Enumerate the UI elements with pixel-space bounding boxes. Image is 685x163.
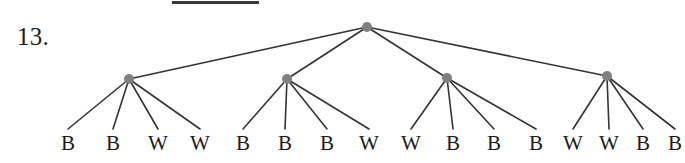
edge-root-to-branch-2 (287, 27, 367, 79)
leaf-label-8: W (359, 133, 379, 154)
leaf-label-5: B (236, 133, 250, 154)
leaf-label-2: B (106, 133, 120, 154)
leaf-label-14: W (599, 133, 619, 154)
leaf-label-4: W (190, 133, 210, 154)
edge-branch-4-to-leaf-2 (607, 76, 609, 129)
edge-branch-3-to-leaf-3 (447, 78, 494, 129)
branch-node-4 (602, 71, 612, 81)
edge-layer (68, 27, 675, 129)
edge-branch-2-to-leaf-1 (243, 79, 287, 129)
leaf-label-7: B (320, 133, 334, 154)
leaf-label-10: B (446, 133, 460, 154)
branch-node-3 (442, 73, 452, 83)
leaf-label-15: B (636, 133, 650, 154)
edge-branch-1-to-leaf-3 (129, 79, 158, 129)
leaf-label-6: B (278, 133, 292, 154)
root-node (362, 22, 372, 32)
edge-branch-4-to-leaf-4 (607, 76, 675, 129)
leaf-label-1: B (61, 133, 75, 154)
leaf-label-13: W (563, 133, 583, 154)
edge-branch-1-to-leaf-4 (129, 79, 200, 129)
edge-branch-3-to-leaf-2 (447, 78, 453, 129)
leaf-label-16: B (668, 133, 682, 154)
leaf-label-3: W (148, 133, 168, 154)
edge-branch-3-to-leaf-1 (411, 78, 447, 129)
leaf-label-9: W (401, 133, 421, 154)
edge-branch-1-to-leaf-1 (68, 79, 129, 129)
leaf-label-11: B (487, 133, 501, 154)
edge-branch-4-to-leaf-1 (573, 76, 607, 129)
edge-branch-2-to-leaf-4 (287, 79, 369, 129)
leaf-label-12: B (529, 133, 543, 154)
edge-root-to-branch-4 (367, 27, 607, 76)
edge-root-to-branch-1 (129, 27, 367, 79)
edge-branch-4-to-leaf-3 (607, 76, 643, 129)
edge-branch-2-to-leaf-2 (285, 79, 287, 129)
branch-node-2 (282, 74, 292, 84)
branch-node-1 (124, 74, 134, 84)
node-layer (124, 22, 612, 84)
tree-diagram-figure: 13. BBWWBBBWWBBBWWBB (0, 0, 685, 163)
edge-branch-2-to-leaf-3 (287, 79, 327, 129)
edge-branch-3-to-leaf-4 (447, 78, 536, 129)
